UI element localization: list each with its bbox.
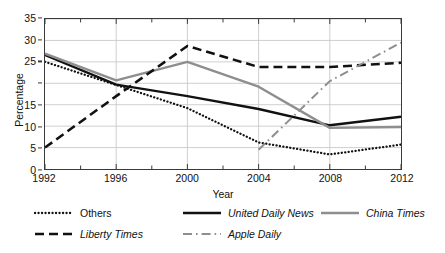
- legend-label-others: Others: [80, 207, 112, 219]
- x-tick-label: 2008: [319, 173, 342, 184]
- series-line-others: [45, 62, 401, 155]
- series-group: [45, 43, 401, 155]
- y-axis: 051015253035: [0, 18, 42, 170]
- legend-row: Liberty TimesApple Daily: [34, 224, 434, 243]
- x-tick-marks: [45, 19, 401, 169]
- y-tick-label: 10: [24, 121, 36, 132]
- legend-swatch-china-times: [320, 207, 360, 219]
- x-tick-label: 1996: [104, 173, 127, 184]
- legend-item-china-times[interactable]: China Times: [320, 203, 425, 222]
- y-tick-label: 25: [24, 56, 36, 67]
- y-tick-label: 30: [24, 34, 36, 45]
- legend-label-china-times: China Times: [366, 207, 425, 219]
- line-chart: Percentage 051015253035 1992199620002004…: [0, 0, 445, 253]
- y-tick-mark: [38, 39, 42, 40]
- legend-row: OthersUnited Daily NewsChina Times: [34, 203, 434, 222]
- legend-label-liberty-times: Liberty Times: [80, 228, 143, 240]
- legend-item-united-daily-news[interactable]: United Daily News: [182, 203, 314, 222]
- chart-legend: OthersUnited Daily NewsChina TimesLibert…: [34, 203, 434, 249]
- y-tick-mark: [38, 17, 42, 18]
- y-tick-mark: [38, 169, 42, 170]
- y-tick-mark: [38, 61, 42, 62]
- x-tick-label: 2000: [176, 173, 199, 184]
- plot-area: [44, 18, 402, 170]
- legend-swatch-others: [34, 207, 74, 219]
- legend-label-united-daily-news: United Daily News: [228, 207, 314, 219]
- y-tick-mark: [38, 83, 42, 84]
- x-tick-label: 2012: [390, 173, 413, 184]
- x-axis-title: Year: [44, 188, 402, 200]
- x-tick-label: 2004: [247, 173, 270, 184]
- y-tick-mark: [38, 104, 42, 105]
- series-line-liberty-times: [45, 46, 401, 148]
- y-tick-label: 15: [24, 100, 36, 111]
- legend-swatch-apple-daily: [182, 228, 222, 240]
- y-tick-mark: [38, 148, 42, 149]
- legend-label-apple-daily: Apple Daily: [228, 228, 281, 240]
- y-tick-label: 35: [24, 13, 36, 24]
- legend-item-liberty-times[interactable]: Liberty Times: [34, 224, 143, 243]
- y-tick-label: 5: [30, 143, 36, 154]
- legend-swatch-united-daily-news: [182, 207, 222, 219]
- legend-swatch-liberty-times: [34, 228, 74, 240]
- plot-canvas: [45, 19, 401, 169]
- legend-item-apple-daily[interactable]: Apple Daily: [182, 224, 281, 243]
- y-tick-mark: [38, 126, 42, 127]
- x-tick-label: 1992: [32, 173, 55, 184]
- legend-item-others[interactable]: Others: [34, 203, 112, 222]
- x-axis: 199219962000200420082012: [44, 171, 402, 187]
- gridlines: [45, 19, 401, 169]
